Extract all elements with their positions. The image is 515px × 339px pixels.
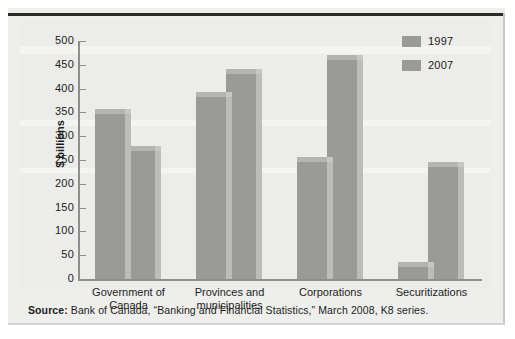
y-axis-tick-label: 100 xyxy=(28,225,74,236)
bar-top-corner xyxy=(256,69,262,74)
bar-1997-corporations xyxy=(297,162,327,279)
bar-top-face xyxy=(327,55,357,60)
source-note: Source: Bank of Canada, “Banking and Fin… xyxy=(28,304,428,316)
bar-side-face xyxy=(256,74,262,279)
bar-1997-government-of-canada xyxy=(95,114,125,279)
chart-panel: $ billions 50045040035030025020015010050… xyxy=(20,20,490,288)
figure-plate: $ billions 50045040035030025020015010050… xyxy=(8,8,505,325)
bar-side-face xyxy=(428,267,434,279)
bar-side-face xyxy=(357,60,363,279)
bar-side-face xyxy=(125,114,131,279)
bar-side-face xyxy=(458,167,464,279)
legend-swatch xyxy=(402,60,421,71)
x-axis-label-line: Provinces and xyxy=(171,286,288,299)
y-axis-tick-label: 250 xyxy=(28,154,74,165)
bar-top-corner xyxy=(428,262,434,267)
bar-top-corner xyxy=(458,162,464,167)
legend-label: 1997 xyxy=(428,35,453,47)
y-axis-tick-label: 500 xyxy=(28,35,74,46)
bar-face xyxy=(297,162,327,279)
source-label: Source: xyxy=(28,304,68,316)
y-axis-tick-label: 450 xyxy=(28,59,74,70)
bar-face xyxy=(196,97,226,279)
bar-top-face xyxy=(196,92,226,97)
source-text: Bank of Canada, “Banking and Financial S… xyxy=(68,304,429,316)
bar-top-face xyxy=(226,69,256,74)
figure-top-rule xyxy=(8,13,505,16)
figure-bottom-edge xyxy=(8,323,505,325)
x-axis-line xyxy=(78,279,482,281)
bar-top-corner xyxy=(125,109,131,114)
y-axis-labels: 500450400350300250200150100500 xyxy=(20,20,74,288)
bar-face xyxy=(398,267,428,279)
bar-side-face xyxy=(155,151,161,279)
bar-top-corner xyxy=(155,146,161,151)
bar-top-face xyxy=(95,109,125,114)
legend-label: 2007 xyxy=(428,59,453,71)
x-axis-label-corporations: Corporations xyxy=(272,286,389,299)
bar-top-face xyxy=(428,162,458,167)
bar-1997-provinces-and-municipalities xyxy=(196,97,226,279)
y-axis-tick-label: 300 xyxy=(28,130,74,141)
bar-top-corner xyxy=(226,92,232,97)
chart-legend: 19972007 xyxy=(402,32,482,80)
y-axis-tick-label: 350 xyxy=(28,106,74,117)
y-axis-tick-label: 0 xyxy=(28,273,74,284)
bar-top-face xyxy=(297,157,327,162)
bar-face xyxy=(95,114,125,279)
y-axis-tick-label: 50 xyxy=(28,249,74,260)
y-axis-tick-label: 150 xyxy=(28,202,74,213)
legend-item-1997: 1997 xyxy=(402,32,482,50)
legend-item-2007: 2007 xyxy=(402,56,482,74)
x-axis-label-securitizations: Securitizations xyxy=(373,286,490,299)
x-axis-label-line: Securitizations xyxy=(373,286,490,299)
bar-top-corner xyxy=(327,157,333,162)
figure-right-edge xyxy=(503,13,505,325)
y-axis-tick-label: 400 xyxy=(28,83,74,94)
y-axis-tick-label: 200 xyxy=(28,178,74,189)
bar-1997-securitizations xyxy=(398,267,428,279)
x-axis-label-line: Corporations xyxy=(272,286,389,299)
x-axis-label-line: Government of xyxy=(70,286,187,299)
bar-side-face xyxy=(327,162,333,279)
bar-side-face xyxy=(226,97,232,279)
legend-swatch xyxy=(402,36,421,47)
bar-top-corner xyxy=(357,55,363,60)
bar-top-face xyxy=(398,262,428,267)
